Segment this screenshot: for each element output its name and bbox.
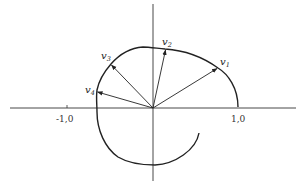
label-v1: v1 (220, 56, 230, 69)
x-tick-label-neg1: -1,0 (56, 114, 74, 124)
diagram-canvas: v1 v2 v3 v4 -1,0 1,0 (0, 0, 297, 184)
vector-v2 (153, 50, 166, 108)
vector-v1 (153, 69, 217, 109)
x-tick-label-1: 1,0 (231, 114, 246, 124)
label-v3: v3 (101, 50, 111, 63)
label-v2: v2 (162, 36, 172, 49)
spiral-curve (97, 47, 238, 165)
label-v4: v4 (85, 84, 95, 97)
